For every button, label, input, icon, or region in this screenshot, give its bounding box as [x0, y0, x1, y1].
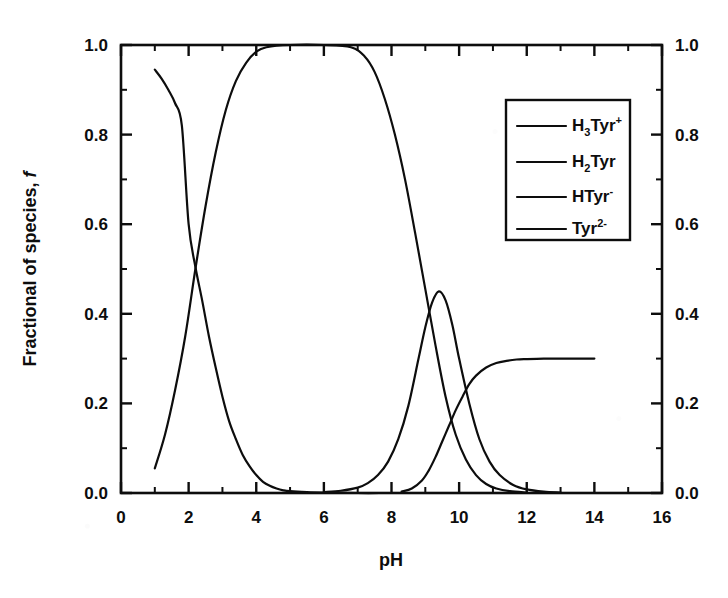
x-tick-label: 6 — [319, 508, 328, 527]
chart-svg: 0246810121416 0.00.20.40.60.81.0 0.00.20… — [0, 0, 728, 598]
x-tick-label: 12 — [517, 508, 536, 527]
right-tick-label: 0.2 — [675, 394, 699, 413]
y-tick-label: 0.8 — [84, 126, 108, 145]
x-axis-title: pH — [379, 550, 403, 570]
x-tick-label: 14 — [585, 508, 604, 527]
x-tick-label: 2 — [184, 508, 193, 527]
y-axis-title-group: Fractional of species, f — [20, 169, 40, 366]
right-tick-label: 1.0 — [675, 36, 699, 55]
y-tick-label: 1.0 — [84, 36, 108, 55]
figure-background — [0, 0, 728, 598]
x-tick-label: 16 — [653, 508, 672, 527]
legend-label-HTyr-: HTyr- — [572, 185, 613, 206]
x-tick-label: 4 — [252, 508, 262, 527]
x-tick-label: 10 — [450, 508, 469, 527]
x-tick-label: 8 — [387, 508, 396, 527]
right-tick-label: 0.4 — [675, 305, 699, 324]
legend[interactable]: H3Tyr+H2TyrHTyr-Tyr2- — [506, 100, 630, 240]
right-tick-label: 0.0 — [675, 484, 699, 503]
y-axis-title: Fractional of species, f — [20, 169, 40, 366]
right-tick-label: 0.6 — [675, 215, 699, 234]
y-tick-label: 0.2 — [84, 394, 108, 413]
y-tick-label: 0.6 — [84, 215, 108, 234]
y-tick-label: 0.0 — [84, 484, 108, 503]
y-tick-label: 0.4 — [84, 305, 108, 324]
legend-label-H3Tyr+: H3Tyr+ — [572, 114, 622, 138]
y-axis-title-text: Fractional of species, — [20, 182, 40, 366]
legend-label-H2Tyr: H2Tyr — [572, 152, 616, 174]
x-tick-label: 0 — [116, 508, 125, 527]
right-tick-label: 0.8 — [675, 126, 699, 145]
